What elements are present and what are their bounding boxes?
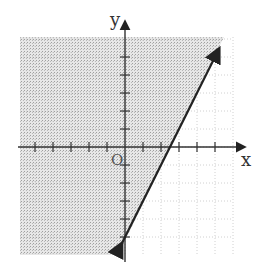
inequality-graph: y x O xyxy=(0,0,263,272)
shaded-region xyxy=(20,37,224,255)
y-axis-label: y xyxy=(109,9,121,30)
x-axis-label: x xyxy=(241,149,251,170)
origin-label: O xyxy=(111,151,123,169)
